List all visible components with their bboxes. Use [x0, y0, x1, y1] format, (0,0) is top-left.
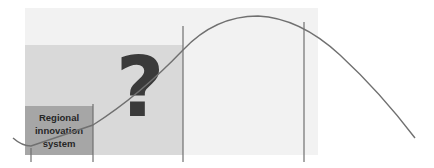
stage-divider-lines	[31, 22, 304, 162]
lifecycle-curve-overlay	[0, 0, 434, 168]
lifecycle-curve	[13, 16, 415, 146]
